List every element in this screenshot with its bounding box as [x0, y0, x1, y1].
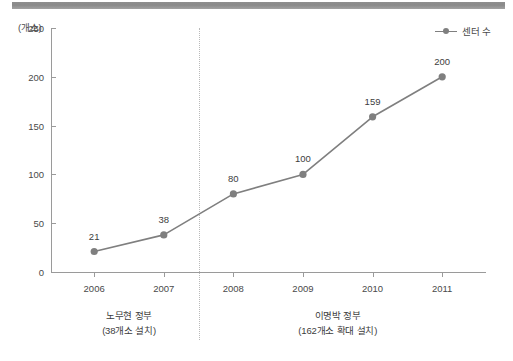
data-point-marker	[299, 171, 306, 178]
data-point-label: 159	[365, 96, 381, 107]
data-point-marker	[230, 190, 237, 197]
annotation-era-left-title: 노무현 정부	[102, 308, 156, 323]
annotation-era-right-title: 이명박 정부	[298, 308, 377, 323]
data-point-marker	[91, 248, 98, 255]
data-point-label: 200	[434, 56, 450, 67]
data-point-label: 21	[89, 231, 100, 242]
series-line-centers	[0, 0, 513, 361]
data-point-label: 80	[228, 173, 239, 184]
chart-page: (개소) 센터 수 050100150200250 20062007200820…	[0, 0, 513, 361]
annotation-era-right: 이명박 정부 (162개소 확대 설치)	[298, 308, 377, 338]
annotation-era-left: 노무현 정부 (38개소 설치)	[102, 308, 156, 338]
data-point-label: 38	[158, 214, 169, 225]
annotation-era-left-subtitle: (38개소 설치)	[102, 323, 156, 338]
data-point-marker	[439, 73, 446, 80]
data-point-label: 100	[295, 153, 311, 164]
data-point-marker	[369, 113, 376, 120]
data-point-marker	[160, 231, 167, 238]
annotation-era-right-subtitle: (162개소 확대 설치)	[298, 323, 377, 338]
